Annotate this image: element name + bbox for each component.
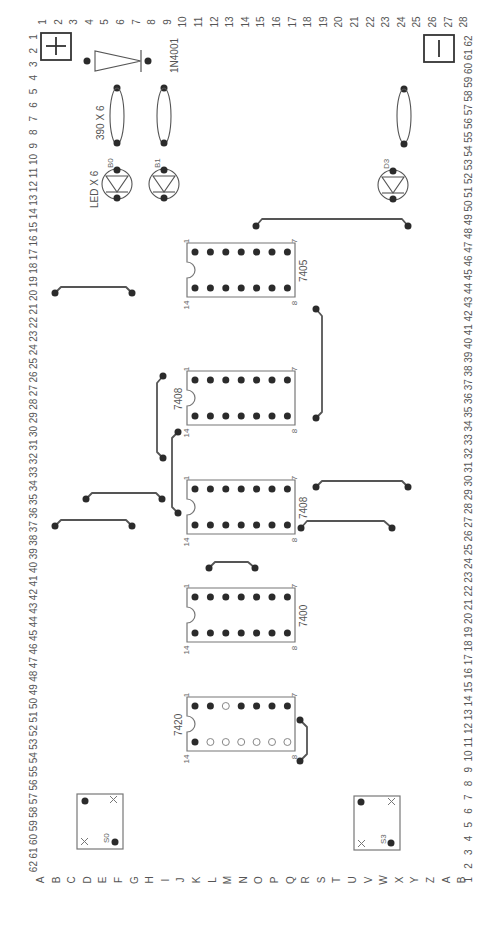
ic-7400[interactable]: 171487400 [182,583,309,654]
ic-pin[interactable] [222,377,229,384]
ic-pin[interactable] [269,486,276,493]
row-number: 53 [28,738,39,750]
ic-pin[interactable] [284,594,291,601]
ic-pin[interactable] [192,739,199,746]
ic-pin[interactable] [253,249,260,256]
wire[interactable] [301,521,392,528]
wire[interactable] [86,493,162,499]
ic-pin[interactable] [192,594,199,601]
wire[interactable] [316,309,322,418]
ic-pin[interactable] [284,285,291,292]
switch-s3[interactable]: S3 [354,796,400,850]
ic-pin[interactable] [207,703,214,710]
diode-1n4001[interactable]: 1N4001 [84,38,181,73]
ic-pin[interactable] [192,249,199,256]
wire[interactable] [316,481,408,487]
ic-7408[interactable]: 171487408 [182,475,309,546]
positive-rail-terminal[interactable] [41,33,71,60]
ic-pin[interactable] [222,413,229,420]
ic-7405[interactable]: 171487405 [182,238,309,309]
ic-pin[interactable] [238,739,245,746]
ic-pin[interactable] [222,594,229,601]
ic-pin[interactable] [269,249,276,256]
ic-pin[interactable] [222,486,229,493]
ic-pin[interactable] [284,377,291,384]
ic-pin[interactable] [192,703,199,710]
ic-pin[interactable] [207,594,214,601]
ic-pin[interactable] [269,377,276,384]
switch-s0[interactable]: S0 [77,794,123,849]
ic-pin[interactable] [284,630,291,637]
ic-pin[interactable] [269,630,276,637]
ic-pin[interactable] [253,703,260,710]
ic-pin[interactable] [269,703,276,710]
ic-pin[interactable] [284,486,291,493]
ic-pin[interactable] [253,486,260,493]
ic-pin[interactable] [284,413,291,420]
ic-pin[interactable] [222,285,229,292]
row-number: 17 [28,249,39,261]
ic-pin[interactable] [207,249,214,256]
ic-pin[interactable] [207,413,214,420]
ic-pin[interactable] [192,377,199,384]
resistor-1[interactable] [110,85,124,147]
ic-pin[interactable] [238,630,245,637]
ic-pin[interactable] [253,594,260,601]
ic-pin[interactable] [284,249,291,256]
ic-pin[interactable] [269,285,276,292]
ic-pin[interactable] [269,739,276,746]
ic-pin[interactable] [253,739,260,746]
wire[interactable] [55,520,132,526]
ic-pin[interactable] [207,739,214,746]
ic-pin[interactable] [238,377,245,384]
ic-pin[interactable] [253,285,260,292]
ic-pin[interactable] [253,522,260,529]
wire[interactable] [256,219,408,226]
ic-pin[interactable] [207,285,214,292]
ic-pin[interactable] [238,486,245,493]
ic-7420[interactable]: 171487420 [173,692,299,763]
ic-pin[interactable] [269,594,276,601]
wire[interactable] [55,287,132,293]
ic-pin[interactable] [222,630,229,637]
ic-pin[interactable] [192,413,199,420]
ic-pin[interactable] [238,594,245,601]
negative-rail-terminal[interactable] [424,35,454,62]
resistor-2[interactable] [157,85,171,147]
led-b0[interactable]: B0 [102,158,132,202]
ic-pin[interactable] [284,522,291,529]
wire[interactable] [157,376,163,458]
led-d3[interactable]: D3 [378,158,408,202]
ic-pin[interactable] [253,630,260,637]
ic-pin[interactable] [222,703,229,710]
led-b1[interactable]: B1 [149,158,179,202]
ic-pin[interactable] [253,377,260,384]
ic-pin[interactable] [238,522,245,529]
ic-pin[interactable] [238,285,245,292]
column-number: 10 [177,16,188,28]
resistor-3[interactable] [397,86,411,148]
ic-pin[interactable] [222,739,229,746]
ic-pin[interactable] [253,413,260,420]
ic-pin[interactable] [192,285,199,292]
ic-pin[interactable] [192,522,199,529]
ic-7408[interactable]: 171487408 [173,366,299,437]
ic-pin[interactable] [207,522,214,529]
ic-pin[interactable] [284,739,291,746]
wire[interactable] [172,432,178,513]
wire[interactable] [300,720,307,761]
ic-pin[interactable] [284,703,291,710]
ic-pin[interactable] [269,413,276,420]
ic-pin[interactable] [269,522,276,529]
ic-pin[interactable] [207,630,214,637]
wire[interactable] [209,562,255,568]
ic-pin[interactable] [238,703,245,710]
ic-pin[interactable] [207,377,214,384]
ic-pin[interactable] [192,486,199,493]
ic-pin[interactable] [192,630,199,637]
ic-pin[interactable] [222,249,229,256]
ic-pin[interactable] [222,522,229,529]
ic-pin[interactable] [238,413,245,420]
ic-pin[interactable] [207,486,214,493]
ic-pin[interactable] [238,249,245,256]
